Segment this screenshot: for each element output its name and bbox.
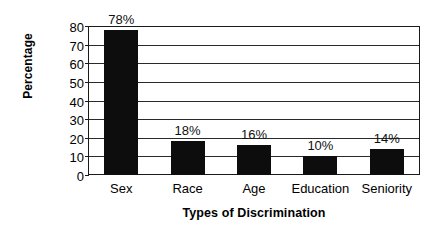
bars-layer: 78%18%16%10%14% [88,26,420,175]
bar-chart: Percentage 80706050403020100 78%18%16%10… [0,0,444,234]
y-axis-tick-label: 40 [50,95,84,108]
y-axis-title: Percentage [18,16,38,116]
x-axis-tick-labels: SexRaceAgeEducationSeniority [88,181,420,201]
y-axis-tick-label: 60 [50,58,84,71]
y-axis-tick-label: 20 [50,132,84,145]
bar-value-label: 78% [91,13,151,26]
bar-value-label: 16% [224,128,284,141]
bar [237,145,271,175]
x-axis-tick-label: Seniority [342,181,432,197]
y-axis-tick-label: 50 [50,76,84,89]
bar [171,141,205,175]
bar [370,149,404,175]
y-axis-tick-label: 10 [50,151,84,164]
x-axis-title: Types of Discrimination [88,206,420,220]
bar [104,30,138,175]
bar-value-label: 14% [357,132,417,145]
bar-value-label: 18% [158,124,218,137]
y-axis-tick-label: 80 [50,21,84,34]
y-axis-tick-label: 30 [50,114,84,127]
bar-value-label: 10% [290,139,350,152]
bar [303,156,337,175]
y-axis-tick-mark [85,175,89,176]
y-axis-tick-label: 70 [50,39,84,52]
